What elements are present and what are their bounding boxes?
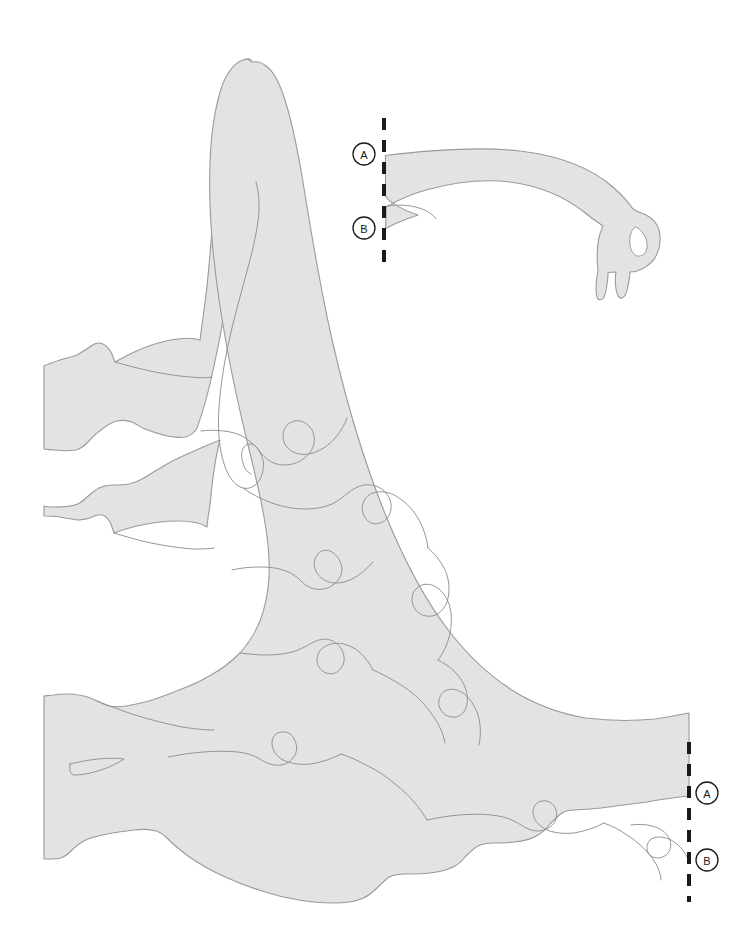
- marker-a-body[interactable]: A: [696, 782, 718, 804]
- puzzle-diagram-svg: A B A B: [0, 0, 747, 950]
- diagram-canvas: A B A B: [0, 0, 747, 950]
- marker-b-body-label: B: [703, 855, 710, 867]
- cut-line-tail-tab: [631, 824, 687, 858]
- neck-head-outline: [386, 149, 661, 300]
- marker-a-body-label: A: [703, 788, 711, 800]
- neck-head-piece: [386, 149, 661, 300]
- cut-line-limb-2: [114, 533, 214, 549]
- marker-b-body[interactable]: B: [696, 849, 718, 871]
- cut-line-tail-tip: [604, 823, 661, 880]
- marker-a-neck[interactable]: A: [353, 143, 375, 165]
- marker-b-neck-label: B: [360, 223, 367, 235]
- marker-a-neck-label: A: [360, 149, 368, 161]
- marker-b-neck[interactable]: B: [353, 217, 375, 239]
